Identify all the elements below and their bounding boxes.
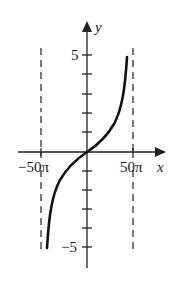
y-tick-label-bottom: −5 — [61, 239, 77, 255]
y-tick-label-top: 5 — [71, 47, 79, 63]
x-axis-label: x — [156, 159, 164, 175]
x-tick-label-pos: 50π — [120, 159, 143, 175]
y-axis-label: y — [93, 19, 102, 35]
chart: y x 5 −5 −50π 50π — [0, 0, 184, 282]
x-axis-arrow-icon — [155, 147, 166, 157]
x-tick-label-neg: −50π — [18, 159, 49, 175]
y-axis-arrow-icon — [82, 21, 92, 32]
